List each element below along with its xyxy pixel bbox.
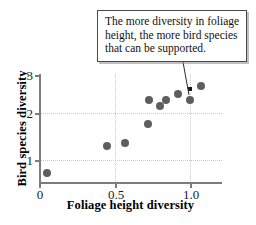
data-point (162, 96, 170, 104)
gridline-vertical-0.5 (115, 74, 117, 183)
gridline-horizontal-1 (40, 160, 222, 162)
data-point (174, 90, 182, 98)
annotation-callout-text: The more diversity in foliageheight, the… (105, 15, 240, 56)
data-point (156, 102, 164, 110)
data-point (197, 82, 205, 90)
x-axis-title: Foliage height diversity (39, 198, 222, 213)
data-point (43, 169, 51, 177)
gridline-horizontal-2 (40, 113, 222, 115)
annotation-callout: The more diversity in foliageheight, the… (97, 10, 247, 62)
highlighted-data-point (188, 87, 192, 91)
data-point (145, 96, 153, 104)
y-tick-mark-2 (35, 113, 39, 115)
annotation-line-0: The more diversity in foliage (105, 15, 240, 29)
y-axis-line (39, 74, 41, 184)
y-tick-mark-1 (35, 160, 39, 162)
data-point (103, 142, 111, 150)
scatter-plot-figure: 3 2 1 0 0.5 1.0 Foliage height diversity… (0, 0, 256, 225)
annotation-line-2: that can be supported. (105, 42, 240, 56)
annotation-line-1: height, the more bird species (105, 29, 240, 43)
data-point (144, 120, 152, 128)
data-point (186, 96, 194, 104)
data-point (121, 139, 129, 147)
y-axis-title: Bird species diversity (15, 54, 30, 204)
x-axis-line (39, 182, 222, 184)
y-tick-mark-3 (35, 75, 39, 77)
